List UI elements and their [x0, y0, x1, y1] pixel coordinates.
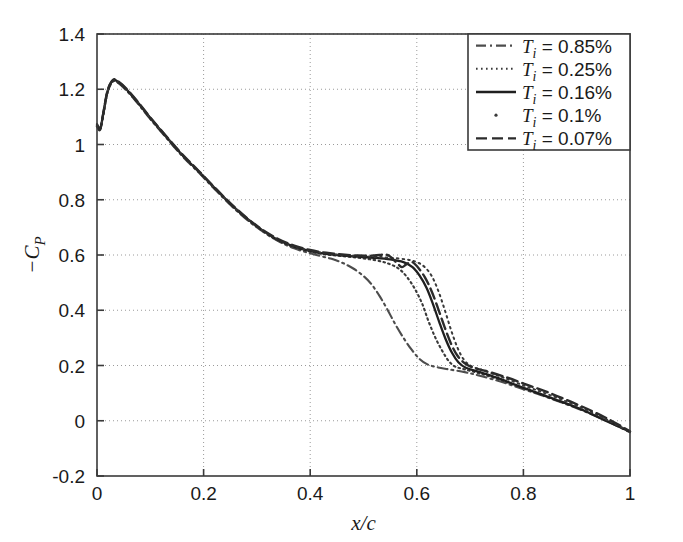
pressure-coefficient-chart: 00.20.40.60.81 1.41.210.80.60.40.20-0.2 … — [0, 0, 683, 542]
x-tick-label: 0.2 — [190, 483, 216, 504]
y-tick-label: 0 — [74, 411, 85, 432]
x-tick-label: 0.8 — [510, 483, 536, 504]
x-tick-label: 1 — [625, 483, 636, 504]
x-tick-label: 0.6 — [404, 483, 430, 504]
x-tick-label: 0 — [92, 483, 103, 504]
y-tick-label: 1.2 — [59, 79, 85, 100]
x-tick-label: 0.4 — [297, 483, 324, 504]
y-tick-label: 0.4 — [59, 300, 86, 321]
y-tick-label: -0.2 — [52, 466, 85, 487]
y-tick-label: 0.2 — [59, 356, 85, 377]
y-tick-label: 0.6 — [59, 245, 85, 266]
legend: Ti = 0.85%Ti = 0.25%Ti = 0.16%Ti = 0.1%T… — [468, 34, 630, 153]
y-tick-label: 0.8 — [59, 190, 85, 211]
y-tick-label: 1 — [74, 135, 85, 156]
legend-sample-dot — [494, 114, 497, 117]
x-axis-title: x/c — [350, 511, 376, 535]
y-tick-label: 1.4 — [59, 24, 86, 45]
